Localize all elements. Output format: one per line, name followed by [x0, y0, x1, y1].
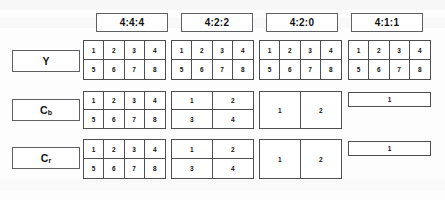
sample-cell: 6	[369, 60, 389, 79]
sample-cell: 2	[213, 140, 254, 159]
sample-cell: 3	[172, 159, 213, 178]
sample-cell: 1	[349, 142, 430, 155]
sample-cell: 2	[192, 41, 212, 60]
sample-cell: 2	[301, 92, 342, 128]
sample-cell: 4	[410, 41, 430, 60]
sample-grid-cb-4-2-0: 12	[259, 91, 342, 129]
column-header-h422: 4:2:2	[181, 13, 253, 32]
sample-cell: 1	[260, 92, 301, 128]
sample-cell: 1	[172, 41, 192, 60]
sample-cell: 1	[260, 41, 280, 60]
sample-cell: 8	[145, 60, 165, 79]
sample-grid-cb-4-4-4: 12345678	[83, 91, 166, 129]
sample-cell: 2	[213, 92, 254, 110]
sample-cell: 4	[213, 110, 254, 128]
sample-cell: 4	[145, 41, 165, 60]
sample-cell: 2	[104, 140, 124, 159]
sample-cell: 5	[260, 60, 280, 79]
row-label-subscript-cb: b	[48, 109, 52, 116]
sample-cell: 3	[125, 41, 145, 60]
column-header-h411: 4:1:1	[351, 13, 423, 32]
sample-cell: 3	[213, 41, 233, 60]
sample-cell: 8	[410, 60, 430, 79]
sample-cell: 8	[145, 110, 165, 128]
row-label-base-cr: C	[41, 152, 49, 164]
sample-cell: 5	[84, 60, 104, 79]
row-label-cb: Cb	[12, 99, 80, 121]
row-label-y: Y	[12, 50, 80, 72]
chroma-subsampling-diagram: 4:4:44:2:24:2:04:1:1 YCbCr 1234567812345…	[0, 0, 445, 200]
sample-cell: 1	[349, 41, 369, 60]
sample-grid-cb-4-1-1: 1	[348, 92, 431, 107]
sample-cell: 7	[125, 60, 145, 79]
row-label-base-y: Y	[42, 55, 49, 67]
sample-grid-y-4-2-0: 12345678	[259, 40, 342, 80]
sample-cell: 8	[145, 159, 165, 178]
sample-cell: 6	[192, 60, 212, 79]
row-label-cr: Cr	[12, 147, 80, 169]
sample-grid-cr-4-4-4: 12345678	[83, 139, 166, 179]
sample-cell: 2	[280, 41, 300, 60]
sample-cell: 4	[321, 41, 341, 60]
column-header-h420: 4:2:0	[266, 13, 338, 32]
sample-cell: 1	[172, 92, 213, 110]
sample-grid-cr-4-1-1: 1	[348, 141, 431, 156]
sample-cell: 4	[233, 41, 253, 60]
sample-cell: 1	[349, 93, 430, 106]
sample-cell: 6	[104, 60, 124, 79]
sample-cell: 7	[390, 60, 410, 79]
sample-grid-y-4-4-4: 12345678	[83, 40, 166, 80]
sample-cell: 7	[125, 110, 145, 128]
sample-cell: 2	[104, 41, 124, 60]
sample-cell: 5	[84, 159, 104, 178]
sample-cell: 6	[104, 159, 124, 178]
sample-cell: 1	[172, 140, 213, 159]
sample-cell: 5	[349, 60, 369, 79]
sample-cell: 5	[172, 60, 192, 79]
sample-cell: 3	[390, 41, 410, 60]
sample-cell: 1	[84, 41, 104, 60]
sample-cell: 3	[301, 41, 321, 60]
sample-grid-y-4-1-1: 12345678	[348, 40, 431, 80]
sample-grid-cr-4-2-2: 1234	[171, 139, 254, 179]
sample-cell: 1	[84, 92, 104, 110]
sample-cell: 8	[233, 60, 253, 79]
sample-grid-cb-4-2-2: 1234	[171, 91, 254, 129]
sample-cell: 5	[84, 110, 104, 128]
sample-cell: 1	[260, 140, 301, 178]
sample-cell: 6	[104, 110, 124, 128]
sample-grid-y-4-2-2: 12345678	[171, 40, 254, 80]
sample-grid-cr-4-2-0: 12	[259, 139, 342, 179]
sample-cell: 4	[213, 159, 254, 178]
sample-cell: 7	[213, 60, 233, 79]
row-label-base-cb: C	[40, 104, 48, 116]
sample-cell: 8	[321, 60, 341, 79]
column-header-h444: 4:4:4	[96, 13, 168, 32]
row-label-subscript-cr: r	[48, 157, 51, 164]
sample-cell: 2	[104, 92, 124, 110]
sample-cell: 3	[125, 92, 145, 110]
sample-cell: 2	[369, 41, 389, 60]
sample-cell: 4	[145, 140, 165, 159]
sample-cell: 7	[301, 60, 321, 79]
sample-cell: 3	[172, 110, 213, 128]
sample-cell: 2	[301, 140, 342, 178]
sample-cell: 3	[125, 140, 145, 159]
sample-cell: 1	[84, 140, 104, 159]
sample-cell: 7	[125, 159, 145, 178]
sample-cell: 4	[145, 92, 165, 110]
sample-cell: 6	[280, 60, 300, 79]
